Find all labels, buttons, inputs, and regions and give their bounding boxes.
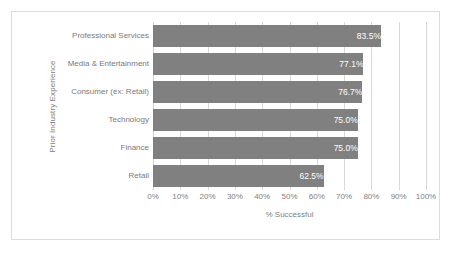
x-tick-label: 100%	[406, 192, 446, 201]
category-label: Technology	[45, 109, 149, 131]
category-label: Consumer (ex: Retail)	[45, 81, 149, 103]
bar-row[interactable]: 62.5%	[153, 165, 426, 187]
bar-value-label: 83.5%	[153, 25, 385, 47]
category-label: Finance	[45, 137, 149, 159]
bar-row[interactable]: 83.5%	[153, 25, 426, 47]
bar-value-label: 75.0%	[153, 137, 362, 159]
plot-area: 83.5%77.1%76.7%75.0%75.0%62.5%	[153, 22, 426, 190]
bar-row[interactable]: 76.7%	[153, 81, 426, 103]
category-label: Media & Entertainment	[45, 53, 149, 75]
bar-row[interactable]: 77.1%	[153, 53, 426, 75]
x-axis-title: % Successful	[153, 210, 426, 219]
gridline	[426, 22, 427, 190]
category-label: Retail	[45, 165, 149, 187]
bar-value-label: 62.5%	[153, 165, 328, 187]
chart-container: Prior Industry Experience Professional S…	[11, 11, 440, 240]
bar-value-label: 76.7%	[153, 81, 366, 103]
bar-value-label: 75.0%	[153, 109, 362, 131]
x-axis-tick-labels: 0%10%20%30%40%50%60%70%80%90%100%	[153, 192, 426, 204]
category-label: Professional Services	[45, 25, 149, 47]
bar-row[interactable]: 75.0%	[153, 137, 426, 159]
bar-value-label: 77.1%	[153, 53, 367, 75]
y-axis-tick-labels: Professional ServicesMedia & Entertainme…	[45, 22, 149, 190]
bar-row[interactable]: 75.0%	[153, 109, 426, 131]
